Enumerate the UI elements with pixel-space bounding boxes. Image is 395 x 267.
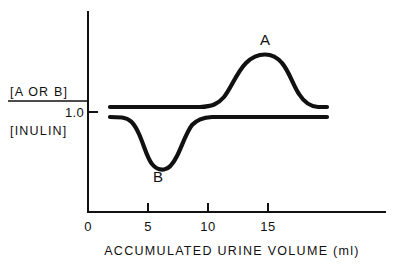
y-tick-label-1.0: 1.0	[65, 105, 84, 120]
x-axis-title: ACCUMULATED URINE VOLUME (ml)	[104, 244, 360, 258]
chart-figure: [A OR B] 1.0 [INULIN] A B 0 5 10 15 ACCU…	[0, 0, 395, 267]
y-axis-label-numerator: [A OR B]	[10, 85, 68, 99]
curve-label-a: A	[260, 31, 270, 48]
chart-canvas: [A OR B] 1.0 [INULIN] A B 0 5 10 15 ACCU…	[0, 0, 395, 267]
x-tick-label-5: 5	[144, 219, 152, 234]
curve-a-path	[110, 55, 327, 108]
curve-b-path	[110, 117, 327, 170]
x-tick-label-10: 10	[200, 219, 215, 234]
curve-label-b: B	[153, 168, 163, 185]
y-axis-label-denominator: [INULIN]	[10, 124, 68, 138]
x-tick-label-0: 0	[84, 219, 92, 234]
x-tick-label-15: 15	[260, 219, 275, 234]
